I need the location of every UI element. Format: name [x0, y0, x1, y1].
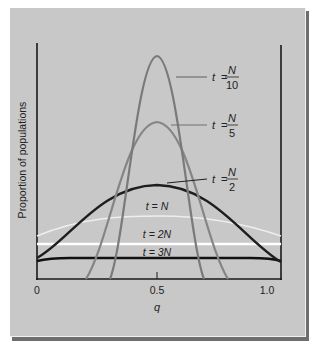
x-tick-label-0: 0: [34, 284, 40, 296]
svg-text:N: N: [228, 166, 236, 178]
label-t-3N: t = 3N: [143, 246, 172, 258]
x-axis-label: q: [154, 301, 161, 313]
svg-text:N: N: [228, 64, 236, 76]
svg-text:10: 10: [226, 79, 238, 91]
curve-t-3N: [37, 258, 281, 261]
svg-text:t: t: [212, 71, 216, 83]
svg-text:t: t: [212, 119, 216, 131]
label-t-N-over-5: t = N 5: [212, 112, 238, 139]
svg-text:N: N: [228, 112, 236, 124]
y-axis-label: Proportion of populations: [16, 102, 28, 219]
label-t-N-over-2: t = N 2: [212, 166, 238, 193]
x-tick-label-1.0: 1.0: [260, 284, 275, 296]
svg-text:5: 5: [229, 127, 235, 139]
label-t-N-over-10: t = N 10: [212, 64, 239, 91]
label-t-N: t = N: [146, 200, 169, 212]
x-tick-label-0.5: 0.5: [150, 284, 165, 296]
label-t-2N: t = 2N: [143, 228, 172, 240]
svg-text:t: t: [212, 173, 216, 185]
svg-text:2: 2: [229, 181, 235, 193]
drift-distribution-chart: t = N 10 t = N 5 t = N 2 t = N t = 2N t …: [0, 0, 322, 353]
